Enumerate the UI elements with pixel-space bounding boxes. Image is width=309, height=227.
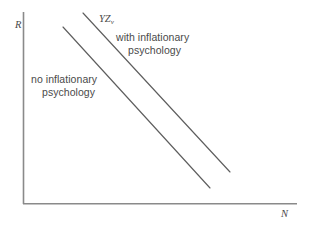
- yz-curve-label-base: YZ: [99, 13, 111, 24]
- annotation-with-inflationary-psychology: with inflationary psychology: [116, 31, 189, 57]
- economics-diagram: R N YZv with inflationary psychology no …: [0, 0, 309, 227]
- x-axis-label: N: [281, 208, 288, 219]
- yz-curve-label: YZv: [99, 13, 114, 26]
- annotation-no-inflationary-psychology: no inflationary psychology: [31, 73, 97, 99]
- annotation-with-line-1: with inflationary: [116, 31, 189, 44]
- annotation-no-line-1: no inflationary: [31, 73, 97, 86]
- annotation-with-line-2: psychology: [116, 44, 189, 57]
- yz-curve-label-subscript: v: [111, 18, 114, 26]
- annotation-no-line-2: psychology: [31, 86, 97, 99]
- y-axis-label: R: [15, 19, 21, 30]
